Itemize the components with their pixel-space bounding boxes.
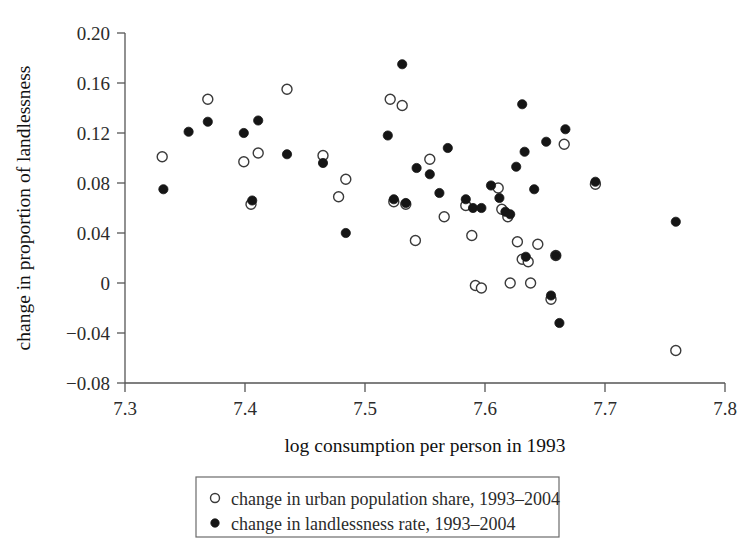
- legend-label-landlessness-rate: change in landlessness rate, 1993–2004: [231, 514, 515, 534]
- data-point-landlessness: [546, 291, 555, 300]
- y-tick-label: −0.04: [66, 323, 110, 344]
- data-point-landlessness: [282, 150, 291, 159]
- data-point-landlessness: [401, 198, 410, 207]
- data-point-landlessness: [425, 170, 434, 179]
- legend: change in urban population share, 1993–2…: [196, 477, 560, 537]
- y-tick-label: 0: [101, 273, 111, 294]
- x-tick-label: 7.7: [593, 398, 617, 419]
- x-tick-label: 7.6: [473, 398, 497, 419]
- data-point-urban: [476, 283, 486, 293]
- data-point-landlessness: [412, 163, 421, 172]
- data-point-landlessness: [383, 131, 392, 140]
- y-tick-label: 0.16: [77, 73, 110, 94]
- data-point-urban: [505, 278, 515, 288]
- data-point-landlessness: [530, 185, 539, 194]
- data-point-landlessness: [443, 143, 452, 152]
- data-point-landlessness: [184, 127, 193, 136]
- data-point-landlessness: [248, 196, 257, 205]
- data-point-urban: [253, 148, 263, 158]
- data-point-urban: [239, 157, 249, 167]
- data-point-landlessness: [520, 147, 529, 156]
- x-tick-label: 7.8: [713, 398, 737, 419]
- legend-label-urban-population-share: change in urban population share, 1993–2…: [231, 489, 560, 509]
- data-point-urban: [334, 192, 344, 202]
- y-tick-label: 0.12: [77, 123, 110, 144]
- data-point-landlessness: [561, 125, 570, 134]
- y-axis-title: change in proportion of landlessness: [13, 66, 34, 351]
- data-point-landlessness: [506, 210, 515, 219]
- data-point-landlessness: [551, 251, 560, 260]
- data-point-urban: [526, 278, 536, 288]
- data-point-urban: [397, 101, 407, 111]
- data-point-landlessness: [341, 228, 350, 237]
- data-point-landlessness: [521, 252, 530, 261]
- data-point-landlessness: [542, 137, 551, 146]
- axes: [125, 33, 725, 383]
- legend-marker-open-circle: [211, 494, 220, 503]
- data-point-landlessness: [591, 177, 600, 186]
- data-point-urban: [157, 152, 167, 162]
- data-point-urban: [467, 231, 477, 241]
- x-tick-label: 7.4: [233, 398, 257, 419]
- data-point-urban: [203, 94, 213, 104]
- data-point-landlessness: [468, 203, 477, 212]
- scatter-plot-figure: 0.200.160.120.080.040−0.04−0.08 7.37.47.…: [0, 0, 756, 550]
- data-point-landlessness: [671, 217, 680, 226]
- x-tick-label: 7.3: [113, 398, 137, 419]
- y-tick-label: −0.08: [66, 373, 110, 394]
- data-point-urban: [425, 154, 435, 164]
- data-point-landlessness: [518, 100, 527, 109]
- legend-marker-filled-circle: [211, 519, 219, 527]
- data-point-landlessness: [389, 195, 398, 204]
- data-point-urban: [341, 174, 351, 184]
- data-point-urban: [533, 239, 543, 249]
- data-point-landlessness: [239, 128, 248, 137]
- data-point-landlessness: [477, 203, 486, 212]
- data-point-urban: [439, 212, 449, 222]
- data-point-landlessness: [254, 116, 263, 125]
- y-tick-label: 0.08: [77, 173, 110, 194]
- data-point-urban: [512, 237, 522, 247]
- x-axis-title: log consumption per person in 1993: [284, 435, 565, 456]
- data-point-landlessness: [318, 158, 327, 167]
- data-point-landlessness: [398, 60, 407, 69]
- series-landlessness-rate-points: [159, 60, 681, 328]
- data-point-landlessness: [486, 181, 495, 190]
- y-tick-label: 0.04: [77, 223, 111, 244]
- data-point-urban: [559, 139, 569, 149]
- data-point-landlessness: [159, 185, 168, 194]
- data-point-landlessness: [512, 162, 521, 171]
- data-point-landlessness: [435, 188, 444, 197]
- data-point-landlessness: [555, 318, 564, 327]
- data-point-urban: [282, 84, 292, 94]
- plot-canvas: 0.200.160.120.080.040−0.04−0.08 7.37.47.…: [0, 0, 756, 550]
- data-point-landlessness: [203, 117, 212, 126]
- data-point-urban: [385, 94, 395, 104]
- y-axis-ticks: 0.200.160.120.080.040−0.04−0.08: [66, 23, 125, 394]
- data-point-landlessness: [461, 195, 470, 204]
- x-tick-label: 7.5: [353, 398, 377, 419]
- data-point-urban: [410, 236, 420, 246]
- data-point-urban: [671, 346, 681, 356]
- data-point-landlessness: [495, 193, 504, 202]
- y-tick-label: 0.20: [77, 23, 110, 44]
- series-urban-population-share-points: [157, 84, 681, 355]
- x-axis-ticks: 7.37.47.57.67.77.8: [113, 383, 737, 419]
